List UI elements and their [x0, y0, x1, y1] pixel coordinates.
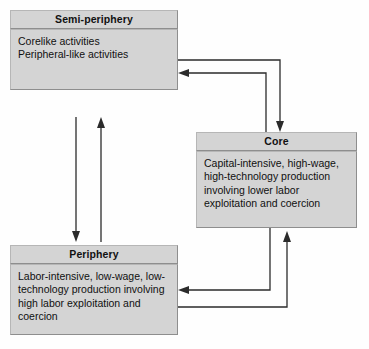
arrowhead-left-into-periphery — [178, 286, 189, 294]
node-semi-periphery-line-1: Corelike activities — [18, 35, 170, 48]
connector-periphery-to-core — [178, 231, 291, 307]
node-core-line-2: high-technology production — [204, 170, 349, 183]
node-core-line-3: involving lower labor — [204, 184, 349, 197]
connector-semi-periphery-to-core — [178, 60, 284, 132]
arrowhead-up-into-core — [283, 231, 291, 242]
node-core-line-1: Capital-intensive, high-wage, — [204, 157, 349, 170]
connector-semi-periphery-to-periphery — [72, 117, 80, 242]
node-periphery-line-1: Labor-intensive, low-wage, low- — [18, 270, 170, 283]
node-core-title: Core — [196, 132, 357, 151]
connector-core-to-periphery — [178, 228, 270, 294]
node-semi-periphery-title: Semi-periphery — [10, 10, 178, 29]
node-semi-periphery[interactable]: Semi-periphery Corelike activities Perip… — [10, 10, 178, 90]
node-periphery-line-3: high labor exploitation and — [18, 297, 170, 310]
arrowhead-left-into-semi-periphery — [178, 69, 189, 77]
connector-periphery-to-semi-periphery — [97, 117, 105, 242]
node-periphery-line-2: technology production involving — [18, 283, 170, 296]
arrowhead-up-into-semi-periphery — [97, 117, 105, 128]
node-periphery-line-4: coercion — [18, 310, 170, 323]
arrowhead-down-into-core — [276, 121, 284, 132]
node-semi-periphery-line-2: Peripheral-like activities — [18, 48, 170, 61]
node-core-body: Capital-intensive, high-wage, high-techn… — [196, 151, 357, 228]
node-semi-periphery-body: Corelike activities Peripheral-like acti… — [10, 29, 178, 90]
arrowhead-down-into-periphery — [72, 231, 80, 242]
node-periphery-body: Labor-intensive, low-wage, low- technolo… — [10, 264, 178, 335]
node-periphery-title: Periphery — [10, 245, 178, 264]
node-core[interactable]: Core Capital-intensive, high-wage, high-… — [196, 132, 357, 228]
diagram-canvas: Semi-periphery Corelike activities Perip… — [0, 0, 369, 349]
node-core-line-4: exploitation and coercion — [204, 197, 349, 210]
node-periphery[interactable]: Periphery Labor-intensive, low-wage, low… — [10, 245, 178, 335]
connector-core-to-semi-periphery — [178, 69, 266, 132]
